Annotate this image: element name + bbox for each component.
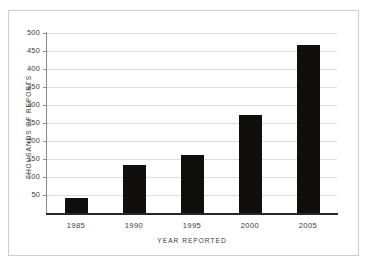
y-axis-tick-label: 150 <box>10 155 40 163</box>
y-axis-tick: 400 <box>0 65 40 73</box>
y-axis-tick: 200 <box>0 137 40 145</box>
y-axis-tick-label: 300 <box>10 101 40 109</box>
y-axis-tick: 100 <box>0 173 40 181</box>
y-axis-tick: 250 <box>0 119 40 127</box>
y-axis-tick: 350 <box>0 83 40 91</box>
chart-figure: THOUSANDS OF REPORTS 5010015020025030035… <box>0 0 369 266</box>
y-axis-tick: 150 <box>0 155 40 163</box>
y-axis-tick-label: 250 <box>10 119 40 127</box>
y-axis-tick-label: 450 <box>10 47 40 55</box>
x-axis-baseline <box>46 213 338 215</box>
y-axis-tick-label: 400 <box>10 65 40 73</box>
x-axis-tick-label: 1985 <box>46 221 106 231</box>
plot-area <box>47 33 337 213</box>
y-axis-tick-label: 50 <box>10 191 40 199</box>
y-axis-tick-label: 500 <box>10 29 40 37</box>
x-axis-tick-label: 2005 <box>278 221 338 231</box>
y-axis-tick: 50 <box>0 191 40 199</box>
y-axis-tick-label: 200 <box>10 137 40 145</box>
y-axis-tick-label: 100 <box>10 173 40 181</box>
x-axis-tick-label: 2000 <box>220 221 280 231</box>
y-axis-tick-label: 350 <box>10 83 40 91</box>
x-axis-title: YEAR REPORTED <box>47 236 337 245</box>
bar <box>297 45 320 213</box>
y-axis-tick: 300 <box>0 101 40 109</box>
bar <box>239 115 262 213</box>
bar <box>123 165 146 213</box>
y-axis-tick: 500 <box>0 29 40 37</box>
x-axis-tick-label: 1990 <box>104 221 164 231</box>
bar <box>65 198 88 213</box>
x-axis-tick-label: 1995 <box>162 221 222 231</box>
bar <box>181 155 204 213</box>
y-axis-tick: 450 <box>0 47 40 55</box>
